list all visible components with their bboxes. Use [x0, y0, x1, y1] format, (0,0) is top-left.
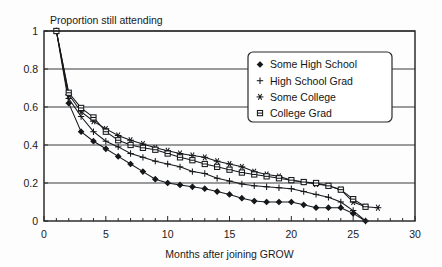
y-axis-title: Proportion still attending — [50, 14, 163, 26]
series-marker-0 — [227, 192, 232, 197]
y-tick-label-0.6: 0.6 — [23, 101, 38, 113]
legend-label-1: High School Grad — [270, 75, 353, 87]
x-tick-label-30: 30 — [409, 228, 421, 240]
x-tick-label-20: 20 — [285, 228, 297, 240]
y-tick-label-0.4: 0.4 — [23, 139, 38, 151]
series-marker-0 — [140, 169, 145, 174]
x-tick-label-10: 10 — [162, 228, 174, 240]
x-tick-label-15: 15 — [224, 228, 236, 240]
legend: Some High SchoolHigh School GradSome Col… — [248, 52, 392, 122]
series-marker-0 — [264, 199, 269, 204]
x-tick-label-5: 5 — [103, 228, 109, 240]
legend-label-0: Some High School — [270, 58, 357, 70]
series-marker-0 — [128, 161, 133, 166]
line-chart-canvas: 00.20.40.60.81051015202530Proportion sti… — [0, 0, 442, 267]
y-tick-label-0.2: 0.2 — [23, 177, 38, 189]
y-tick-label-0: 0 — [32, 215, 38, 227]
series-marker-0 — [153, 177, 158, 182]
legend-label-2: Some College — [270, 91, 336, 103]
x-axis-title: Months after joining GROW — [165, 248, 293, 260]
series-marker-0 — [202, 186, 207, 191]
series-marker-0 — [215, 189, 220, 194]
y-tick-label-1: 1 — [32, 25, 38, 37]
series-marker-0 — [289, 199, 294, 204]
series-marker-0 — [326, 205, 331, 210]
series-marker-0 — [301, 202, 306, 207]
series-marker-0 — [103, 146, 108, 151]
series-marker-0 — [338, 205, 343, 210]
y-tick-label-0.8: 0.8 — [23, 63, 38, 75]
series-marker-0 — [239, 196, 244, 201]
legend-label-3: College Grad — [270, 107, 332, 119]
series-marker-0 — [165, 180, 170, 185]
x-tick-label-25: 25 — [347, 228, 359, 240]
chart-figure: 00.20.40.60.81051015202530Proportion sti… — [0, 0, 442, 267]
series-marker-0 — [252, 198, 257, 203]
series-marker-0 — [190, 184, 195, 189]
series-marker-0 — [116, 154, 121, 159]
x-tick-label-0: 0 — [41, 228, 47, 240]
series-marker-0 — [313, 205, 318, 210]
series-marker-0 — [276, 199, 281, 204]
